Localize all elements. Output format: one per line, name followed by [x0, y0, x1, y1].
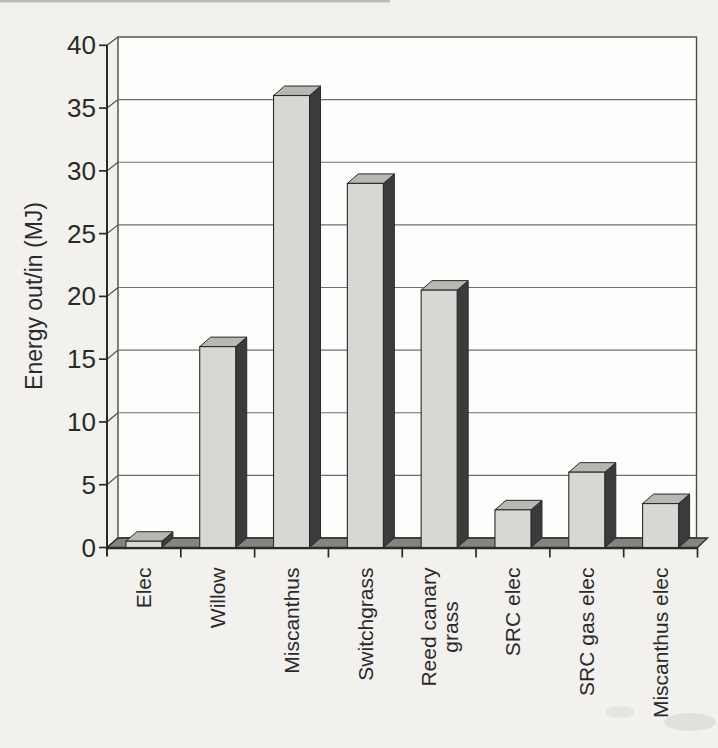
bar-miscanthus: [274, 86, 321, 547]
y-axis-title: Energy out/in (MJ): [21, 202, 47, 390]
bar-src-elec: [495, 500, 542, 547]
scan-artifact-top-edge: [0, 0, 390, 3]
floor-slab: [107, 538, 708, 548]
y-tick-label-25: 25: [67, 219, 96, 249]
y-tick-label-35: 35: [67, 93, 96, 123]
bar-src-gas-elec-front: [569, 472, 605, 547]
y-tick-label-15: 15: [67, 344, 96, 374]
x-label-miscanthus-elec: Miscanthus elec: [649, 568, 672, 719]
bar-src-gas-elec-side: [605, 463, 616, 548]
bar-switchgrass-side: [383, 174, 394, 548]
y-tick-label-10: 10: [67, 407, 96, 437]
scan-artifact-smudge-2: [606, 706, 634, 718]
bar-elec-front: [126, 541, 162, 547]
bar-miscanthus-elec: [643, 494, 690, 547]
y-tick-label-5: 5: [82, 470, 96, 500]
x-label-src-elec: SRC elec: [501, 568, 524, 657]
x-label-reed-canary-grass-line2: grass: [439, 601, 462, 652]
bar-willow-front: [200, 347, 236, 548]
y-tick-label-0: 0: [82, 533, 96, 563]
bar-reed-canary-grass-side: [457, 281, 468, 548]
x-label-willow: Willow: [206, 567, 229, 628]
bar-miscanthus-elec-front: [643, 504, 679, 548]
energy-ratio-bar-chart: 0510152025303540ElecWillowMiscanthusSwit…: [0, 0, 718, 748]
bar-willow: [200, 337, 247, 547]
y-tick-label-30: 30: [67, 156, 96, 186]
x-label-switchgrass: Switchgrass: [354, 568, 377, 681]
x-label-src-gas-elec: SRC gas elec: [575, 568, 598, 696]
y-tick-label-40: 40: [67, 30, 96, 60]
x-label-miscanthus: Miscanthus: [280, 568, 303, 674]
x-label-reed-canary-grass-line1: Reed canary: [417, 567, 440, 687]
x-label-elec: Elec: [132, 568, 155, 609]
bar-switchgrass-front: [347, 183, 383, 547]
bar-reed-canary-grass-front: [421, 290, 457, 547]
scan-artifact-smudge: [664, 713, 716, 731]
scanned-figure-page: 0510152025303540ElecWillowMiscanthusSwit…: [0, 0, 718, 748]
bar-src-gas-elec: [569, 463, 616, 548]
y-tick-label-20: 20: [67, 281, 96, 311]
bar-switchgrass: [347, 174, 394, 548]
bar-src-elec-front: [495, 510, 531, 548]
bar-willow-side: [236, 337, 247, 547]
bar-miscanthus-front: [274, 96, 310, 548]
bar-miscanthus-side: [310, 86, 321, 547]
bar-reed-canary-grass: [421, 281, 468, 548]
